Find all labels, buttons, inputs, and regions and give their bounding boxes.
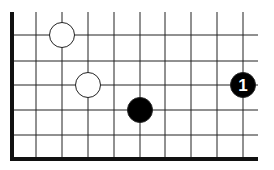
black-stone	[128, 98, 153, 123]
bottom-edge	[10, 157, 258, 161]
board-grid	[12, 12, 258, 159]
white-stone	[50, 23, 75, 48]
left-edge	[10, 12, 14, 161]
go-board: 1	[0, 0, 274, 170]
white-stone	[76, 73, 101, 98]
move-number-label: 1	[238, 76, 247, 95]
